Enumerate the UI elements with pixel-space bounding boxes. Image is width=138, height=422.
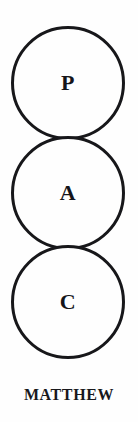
circle-stack: P A C <box>0 0 138 370</box>
circle-a: A <box>11 136 125 250</box>
circle-c-label: C <box>14 291 122 313</box>
circle-p: P <box>11 26 125 140</box>
diagram-caption: MATTHEW <box>0 386 138 404</box>
circle-p-label: P <box>14 72 122 94</box>
circle-a-label: A <box>14 182 122 204</box>
circle-c: C <box>11 245 125 359</box>
pac-diagram: P A C MATTHEW <box>0 0 138 422</box>
